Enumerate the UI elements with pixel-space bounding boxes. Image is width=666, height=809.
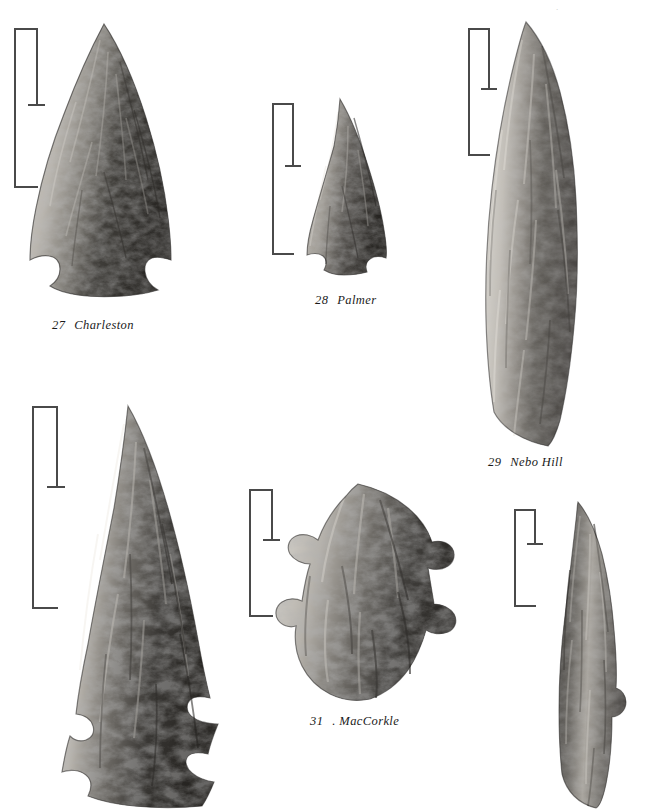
artifact-maccorkle	[272, 480, 482, 705]
scale-bar-maccorkle	[249, 489, 273, 617]
artifact-nebo-hill	[466, 20, 606, 448]
caption-maccorkle: 31. MacCorkle	[310, 714, 399, 729]
artifact-32	[546, 500, 666, 809]
caption-number: 29	[488, 455, 501, 469]
scale-bar-palmer	[272, 103, 294, 255]
caption-name: Nebo Hill	[510, 455, 563, 469]
caption-number: 27	[52, 318, 65, 332]
caption-nebo-hill: 29Nebo Hill	[488, 455, 563, 470]
page-mark: .	[556, 2, 558, 12]
plate-figure: .	[0, 0, 666, 809]
caption-name: Palmer	[337, 293, 376, 307]
caption-palmer: 28Palmer	[315, 293, 377, 308]
scale-bar-artifact-32	[514, 509, 536, 607]
artifact-30	[52, 404, 252, 809]
caption-name: Charleston	[74, 318, 134, 332]
artifact-palmer	[296, 96, 406, 281]
caption-name: . MacCorkle	[332, 714, 399, 728]
caption-number: 28	[315, 293, 328, 307]
artifact-charleston	[8, 22, 188, 300]
caption-number: 31	[310, 714, 323, 728]
caption-charleston: 27Charleston	[52, 318, 134, 333]
